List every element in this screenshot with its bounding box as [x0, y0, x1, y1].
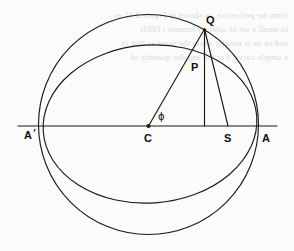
radius-line-CQ	[149, 29, 205, 126]
label-P: P	[191, 62, 198, 73]
label-A: A	[262, 133, 270, 144]
figure-container: from the pericentre, as shown in Figure …	[0, 0, 294, 251]
prime-mark-icon: ′	[33, 127, 36, 139]
focal-line-SQ	[205, 29, 229, 126]
label-Q: Q	[206, 15, 215, 26]
label-C: C	[144, 133, 152, 144]
point-Q-marker	[203, 28, 206, 31]
label-S: S	[224, 133, 231, 144]
label-A-prime: A	[24, 130, 32, 141]
geometry-diagram	[0, 0, 294, 251]
label-phi-angle: ϕ	[158, 112, 165, 122]
center-point-marker	[146, 124, 150, 128]
